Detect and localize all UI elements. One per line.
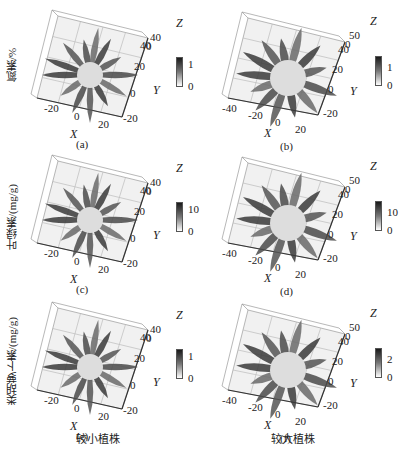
y-tick-label: 0 (130, 233, 136, 244)
y-axis-label: Y (350, 229, 357, 244)
plot-panel-d: -40-20020-2002040050XYZ100(d) (200, 145, 403, 293)
colorbar-max-label: 1 (188, 59, 194, 70)
colorbar-max-label: 1 (387, 62, 393, 73)
x-tick-label: 0 (275, 117, 281, 128)
x-tick-label: 20 (98, 264, 109, 275)
z-tick-label: 40 (150, 177, 161, 188)
y-tick-label: 0 (130, 88, 136, 99)
y-axis-label: Y (350, 376, 357, 391)
y-tick-label: 0 (328, 376, 334, 387)
x-tick-label: 20 (295, 124, 306, 135)
z-axis-label: Z (176, 161, 183, 176)
x-tick-label: -40 (222, 248, 237, 259)
colorbar-min-label: 0 (188, 226, 194, 237)
x-tick-label: -20 (44, 248, 59, 259)
colorbar-min-label: 0 (188, 81, 194, 92)
plot-panel-b: -40-20020-2002040050XYZ10(b) (200, 0, 403, 148)
z-axis-label: Z (176, 16, 183, 31)
x-tick-label: -40 (222, 395, 237, 406)
plot-panel-e: -20020-2002040040XYZ10(e) (0, 292, 203, 440)
z-axis-label: Z (176, 308, 183, 323)
plot-panel-a: -20020-2002040040XYZ10(a) (0, 0, 203, 148)
x-tick-label: 0 (275, 409, 281, 420)
plot-panel-f: -40-20020-2002040050XYZ20(f) (200, 292, 403, 440)
y-tick-label: 20 (134, 206, 145, 217)
colorbar-max-label: 1 (188, 351, 194, 362)
z-tick-label: 50 (349, 30, 360, 41)
x-axis-label: X (264, 126, 271, 141)
column-label-large-plant: 较大植株 (271, 430, 315, 446)
x-tick-label: 20 (98, 119, 109, 130)
plot-panel-c: -20020-2002040040XYZ100(c) (0, 145, 203, 293)
colorbar (375, 56, 382, 86)
x-tick-label: 0 (74, 256, 80, 267)
y-tick-label: 20 (134, 61, 145, 72)
z-tick-label: 40 (150, 324, 161, 335)
x-tick-label: 0 (74, 111, 80, 122)
column-label-small-plant: 较小植株 (76, 430, 120, 446)
colorbar-min-label: 0 (387, 225, 393, 236)
y-tick-label: -20 (123, 405, 138, 416)
y-tick-label: 0 (130, 380, 136, 391)
x-tick-label: 20 (295, 269, 306, 280)
y-tick-label: -20 (123, 258, 138, 269)
colorbar-max-label: 10 (387, 207, 398, 218)
y-tick-label: -20 (323, 108, 338, 119)
y-tick-label: -20 (323, 400, 338, 411)
x-tick-label: 20 (98, 411, 109, 422)
z-axis-label: Z (370, 306, 377, 321)
x-tick-label: -20 (248, 402, 263, 413)
colorbar (375, 201, 382, 231)
z-tick-label: 50 (349, 322, 360, 333)
x-tick-label: -20 (44, 103, 59, 114)
colorbar-min-label: 0 (387, 80, 393, 91)
colorbar (176, 202, 183, 232)
y-axis-label: Y (153, 83, 160, 98)
x-tick-label: 0 (275, 262, 281, 273)
y-axis-label: Y (153, 228, 160, 243)
z-axis-label: Z (370, 14, 377, 29)
z-axis-label: Z (370, 159, 377, 174)
y-tick-label: 20 (332, 356, 343, 367)
y-axis-label: Y (153, 375, 160, 390)
y-tick-label: 20 (332, 64, 343, 75)
z-tick-label: 50 (349, 175, 360, 186)
x-tick-label: 20 (295, 416, 306, 427)
x-tick-label: -20 (248, 110, 263, 121)
x-tick-label: 0 (74, 403, 80, 414)
colorbar (375, 348, 382, 378)
colorbar (176, 349, 183, 379)
y-tick-label: 0 (328, 229, 334, 240)
x-tick-label: -40 (222, 103, 237, 114)
y-tick-label: 20 (332, 209, 343, 220)
colorbar-max-label: 2 (387, 354, 393, 365)
x-axis-label: X (264, 271, 271, 286)
colorbar (176, 57, 183, 87)
z-tick-label: 40 (150, 32, 161, 43)
colorbar-min-label: 0 (188, 373, 194, 384)
y-tick-label: 0 (328, 84, 334, 95)
y-tick-label: -20 (123, 113, 138, 124)
y-tick-label: 20 (134, 353, 145, 364)
x-tick-label: -20 (248, 255, 263, 266)
y-tick-label: -20 (323, 253, 338, 264)
x-tick-label: -20 (44, 395, 59, 406)
colorbar-max-label: 10 (188, 204, 199, 215)
colorbar-min-label: 0 (387, 372, 393, 383)
y-axis-label: Y (350, 84, 357, 99)
